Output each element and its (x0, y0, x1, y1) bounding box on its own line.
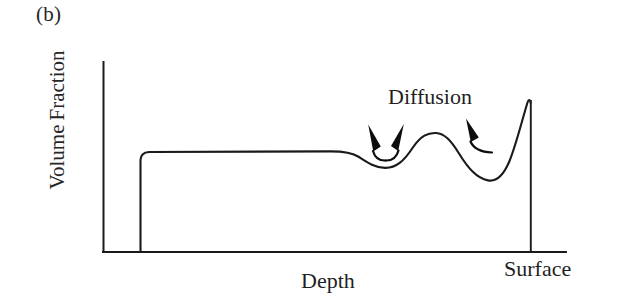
x-axis-label: Depth (301, 270, 355, 292)
diffusion-annotation-label: Diffusion (388, 86, 472, 108)
figure-panel-b: (b) Volume Fraction Diffusion Depth S (0, 0, 630, 307)
diffusion-arrow-right (386, 124, 404, 161)
diffusion-arrow-left (368, 125, 385, 161)
diffusion-arrow-second-minimum (466, 119, 492, 153)
data-curve (141, 100, 531, 252)
surface-axis-label: Surface (504, 258, 571, 280)
